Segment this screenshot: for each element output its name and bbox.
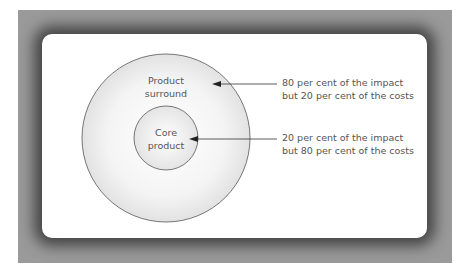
label-line: Product xyxy=(140,74,192,87)
annotation-line: but 80 per cent of the costs xyxy=(282,144,414,157)
annotation-line: but 20 per cent of the costs xyxy=(282,89,414,102)
label-line: product xyxy=(140,139,192,152)
label-line: Core xyxy=(140,126,192,139)
core-annotation: 20 per cent of the impact but 80 per cen… xyxy=(282,131,414,157)
surround-annotation: 80 per cent of the impact but 20 per cen… xyxy=(282,76,414,102)
label-line: surround xyxy=(140,87,192,100)
product-surround-label: Product surround xyxy=(140,74,192,100)
core-product-label: Core product xyxy=(140,126,192,152)
annotation-line: 80 per cent of the impact xyxy=(282,76,414,89)
annotation-line: 20 per cent of the impact xyxy=(282,131,414,144)
